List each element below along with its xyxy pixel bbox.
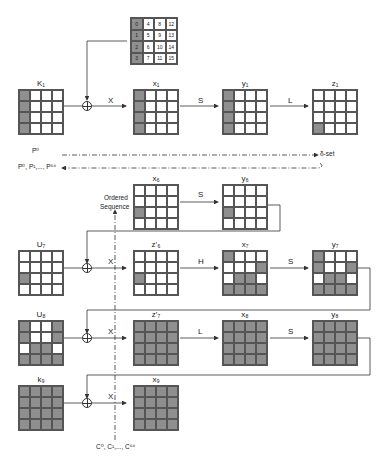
state-cell: [19, 101, 30, 112]
state-cell: [346, 101, 357, 112]
state-cell: [313, 101, 324, 112]
state-cell: [346, 123, 357, 134]
state-cell: [256, 262, 267, 273]
state-cell: [167, 112, 178, 123]
state-cell: [41, 112, 52, 123]
state-grid: [312, 89, 358, 135]
state-cell: [41, 397, 52, 408]
state-cell: [256, 207, 267, 218]
state-cell: [156, 196, 167, 207]
index-cell: 6: [143, 41, 155, 53]
state-cell: [256, 251, 267, 262]
state-cell: [134, 262, 145, 273]
state-cell: [167, 354, 178, 365]
state-cell: [167, 419, 178, 430]
state-cell: [41, 419, 52, 430]
state-cell: [156, 90, 167, 101]
state-cell: [41, 408, 52, 419]
state-cell: [41, 123, 52, 134]
state-cell: [335, 251, 346, 262]
state-grid: [133, 385, 179, 431]
state-cell: [145, 284, 156, 295]
operation-label: L: [288, 96, 292, 105]
index-cell: 0: [131, 18, 143, 30]
index-feed-line: [87, 41, 127, 100]
state-cell: [30, 419, 41, 430]
state-cell: [52, 354, 63, 365]
state-cell: [223, 332, 234, 343]
state-cell: [324, 284, 335, 295]
state-cell: [223, 123, 234, 134]
state-cell: [145, 343, 156, 354]
state-cell: [335, 321, 346, 332]
state-cell: [234, 251, 245, 262]
state-cell: [145, 262, 156, 273]
state-cell: [145, 185, 156, 196]
state-cell: [223, 354, 234, 365]
state-cell: [335, 90, 346, 101]
state-cell: [156, 397, 167, 408]
state-cell: [134, 354, 145, 365]
state-cell: [30, 273, 41, 284]
index-cell: 13: [166, 30, 178, 42]
state-cell: [313, 112, 324, 123]
state-cell: [324, 321, 335, 332]
state-cell: [30, 321, 41, 332]
state-cell: [30, 112, 41, 123]
state-cell: [156, 218, 167, 229]
state-label: K₁: [18, 79, 64, 88]
state-cell: [30, 397, 41, 408]
state-cell: [30, 123, 41, 134]
xor-icon: [82, 263, 92, 273]
state-cell: [30, 343, 41, 354]
state-cell: [134, 419, 145, 430]
operation-label: S: [198, 96, 203, 105]
state-label: x₆: [133, 174, 179, 183]
state-cell: [134, 397, 145, 408]
state-cell: [52, 386, 63, 397]
operation-label: S: [288, 327, 293, 336]
state-cell: [245, 90, 256, 101]
state-cell: [19, 284, 30, 295]
state-cell: [52, 262, 63, 273]
state-cell: [19, 273, 30, 284]
state-cell: [156, 185, 167, 196]
state-cell: [156, 101, 167, 112]
state-cell: [134, 284, 145, 295]
state-cell: [19, 397, 30, 408]
state-cell: [324, 123, 335, 134]
state-label: y₆: [222, 174, 268, 183]
state-cell: [134, 332, 145, 343]
state-cell: [145, 419, 156, 430]
state-cell: [145, 196, 156, 207]
state-label: z'₆: [133, 240, 179, 249]
state-cell: [313, 332, 324, 343]
state-cell: [167, 123, 178, 134]
state-cell: [134, 273, 145, 284]
operation-label: X: [108, 392, 113, 401]
state-cell: [256, 218, 267, 229]
state-cell: [30, 90, 41, 101]
state-cell: [223, 207, 234, 218]
state-cell: [256, 90, 267, 101]
state-cell: [245, 112, 256, 123]
state-cell: [19, 332, 30, 343]
operation-label: X: [108, 257, 113, 266]
state-cell: [324, 332, 335, 343]
state-cell: [324, 101, 335, 112]
state-cell: [156, 332, 167, 343]
index-cell: 1: [131, 30, 143, 42]
state-cell: [324, 262, 335, 273]
state-cell: [30, 354, 41, 365]
state-grid: [18, 385, 64, 431]
state-cell: [234, 332, 245, 343]
state-cell: [156, 419, 167, 430]
state-cell: [167, 262, 178, 273]
index-cell: 12: [166, 18, 178, 30]
state-cell: [19, 251, 30, 262]
state-cell: [256, 284, 267, 295]
state-cell: [234, 218, 245, 229]
state-cell: [41, 321, 52, 332]
state-cell: [234, 185, 245, 196]
state-cell: [346, 343, 357, 354]
